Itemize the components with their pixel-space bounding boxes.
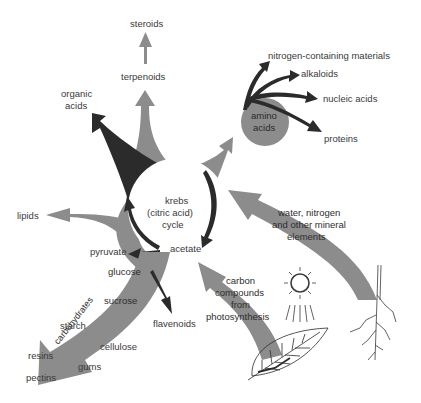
label-cycle: cycle [162, 219, 184, 230]
label-gums: gums [78, 361, 101, 372]
label-acids: acids [253, 122, 275, 133]
lipids-arrow [46, 208, 127, 240]
steroids-arrow [139, 32, 152, 64]
label-amino: amino [251, 110, 277, 121]
label-pectins: pectins [26, 372, 56, 383]
label-steroids: steroids [130, 18, 163, 29]
label-carbon-2: compounds [215, 287, 264, 298]
label-cellulose: cellulose [100, 341, 137, 352]
label-krebs: krebs [165, 195, 188, 206]
sun-icon [284, 267, 316, 322]
label-lipids: lipids [17, 210, 39, 221]
label-nucleic-acids: nucleic acids [323, 93, 377, 104]
label-carbon-4: photosynthesis [206, 311, 269, 322]
label-glucose: glucose [108, 266, 141, 277]
label-water-3: elements [287, 231, 326, 242]
label-citric-acid: (citric acid) [147, 207, 193, 218]
label-resins: resins [28, 350, 53, 361]
label-pyruvate: pyruvate [90, 246, 126, 257]
label-water-2: and other mineral [272, 219, 346, 230]
label-flavenoids: flavenoids [153, 318, 196, 329]
label-organic-acids-2: acids [65, 100, 87, 111]
label-carbon-3: from [231, 299, 250, 310]
label-carbon-1: carbon [226, 275, 255, 286]
label-nitrogen-containing: nitrogen-containing materials [268, 50, 390, 61]
label-organic-acids-1: organic [61, 88, 92, 99]
label-terpenoids: terpenoids [121, 71, 165, 82]
label-water-1: water, nitrogen [278, 207, 340, 218]
label-alkaloids: alkaloids [301, 68, 338, 79]
label-sucrose: sucrose [104, 295, 137, 306]
label-acetate: acetate [170, 243, 201, 254]
label-proteins: proteins [324, 133, 358, 144]
